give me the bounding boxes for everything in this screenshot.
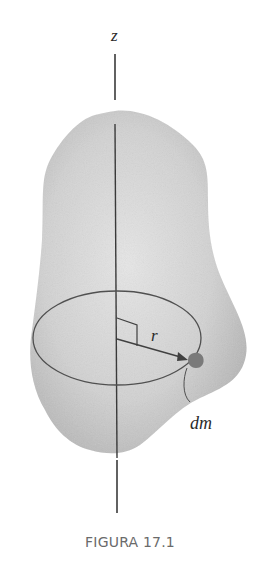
radius-label: r <box>151 326 158 345</box>
rigid-body-shape <box>30 111 246 454</box>
z-axis-label: z <box>110 26 118 45</box>
mass-element-dm <box>188 353 204 368</box>
figure-caption: FIGURA 17.1 <box>0 534 260 550</box>
rigid-body-diagram: z r dm <box>0 0 260 579</box>
mass-element-label: dm <box>190 413 212 433</box>
